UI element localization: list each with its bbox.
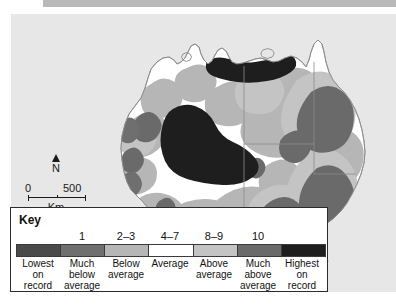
- key-swatch: [194, 245, 238, 256]
- key-swatch: [61, 245, 105, 256]
- key-swatch: [282, 245, 325, 256]
- key-decile-number: 2–3: [104, 230, 148, 243]
- key-swatch: [238, 245, 282, 256]
- key-decile-numbers: 1 2–3 4–7 8–9 10: [16, 230, 324, 243]
- key-decile-number: 4–7: [148, 230, 192, 243]
- key-decile-number: 8–9: [192, 230, 236, 243]
- scale-bar-start-label: 0: [25, 182, 31, 194]
- key-class-label-line: average: [237, 280, 279, 291]
- scale-bar-numbers: 0 500: [25, 182, 95, 194]
- key-class-label-line: above: [237, 269, 279, 280]
- key-class-label-line: Above: [193, 258, 235, 269]
- key-swatch: [149, 245, 193, 256]
- key-class-label: Below average: [104, 258, 148, 291]
- key-class-label-line: on record: [281, 269, 323, 291]
- key-class-label-line: below: [61, 269, 103, 280]
- key-colour-ramp: [16, 244, 326, 257]
- key-swatch: [17, 245, 61, 256]
- key-class-label-line: Much: [61, 258, 103, 269]
- key-class-label: Much above average: [236, 258, 280, 291]
- key-class-label-line: Highest: [281, 258, 323, 269]
- key-decile-number: 10: [236, 230, 280, 243]
- key-decile-number: [280, 230, 324, 243]
- key-class-label: Average: [148, 258, 192, 291]
- key-decile-number: [16, 230, 60, 243]
- key-class-label-line: Much: [237, 258, 279, 269]
- key-class-label-line: Average: [149, 258, 191, 269]
- key-class-label: Above average: [192, 258, 236, 291]
- scale-bar-graphic: [28, 195, 86, 201]
- key-class-label-line: average: [105, 269, 147, 280]
- map-key-legend: Key 1 2–3 4–7 8–9 10 Lowest on record Mu…: [10, 207, 328, 292]
- scale-bar-tick: [57, 195, 58, 198]
- key-title: Key: [19, 213, 41, 227]
- key-class-label-line: Lowest: [17, 258, 59, 269]
- key-class-label-line: Below: [105, 258, 147, 269]
- key-class-label: Much below average: [60, 258, 104, 291]
- key-class-label: Highest on record: [280, 258, 324, 291]
- key-class-label-line: average: [61, 280, 103, 291]
- scale-bar-end-label: 500: [63, 182, 81, 194]
- key-class-label-line: on record: [17, 269, 59, 291]
- key-swatch: [105, 245, 149, 256]
- key-decile-number: 1: [60, 230, 104, 243]
- key-class-label: Lowest on record: [16, 258, 60, 291]
- key-class-labels: Lowest on record Much below average Belo…: [16, 258, 324, 291]
- top-grey-band: [43, 0, 396, 7]
- key-class-label-line: average: [193, 269, 235, 280]
